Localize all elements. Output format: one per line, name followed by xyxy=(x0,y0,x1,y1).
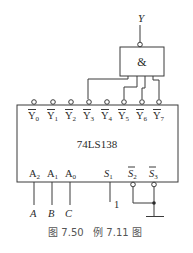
svg-text:S3: S3 xyxy=(149,168,158,181)
svg-text:Y1: Y1 xyxy=(47,110,59,123)
input-s3-bar: S3 xyxy=(149,167,158,181)
s2-bubble xyxy=(131,182,136,187)
output-y1: Y1 xyxy=(47,110,59,124)
wire-y6 xyxy=(142,76,145,99)
input-a0: A0 xyxy=(65,168,77,181)
input-a1: A1 xyxy=(47,168,59,181)
junction-dot xyxy=(152,201,156,205)
output-y6: Y6 xyxy=(136,110,148,124)
output-y-label: Y xyxy=(138,12,146,24)
input-a2: A2 xyxy=(29,168,41,181)
svg-text:Y3: Y3 xyxy=(83,110,95,123)
signal-a-label: A xyxy=(29,208,37,219)
and-gate: & xyxy=(120,47,164,76)
svg-text:Y7: Y7 xyxy=(153,110,165,123)
wire-y3 xyxy=(88,76,128,99)
svg-text:Y2: Y2 xyxy=(65,110,77,123)
input-s2-bar: S2 xyxy=(128,167,137,181)
decoder-circuit-diagram: Y & Y0 Y1 Y2 xyxy=(0,0,193,253)
input-labels: A2 A1 A0 S1 S2 S3 xyxy=(29,167,158,181)
output-y4: Y4 xyxy=(101,110,113,124)
wire-y7 xyxy=(153,76,159,99)
svg-text:Y0: Y0 xyxy=(28,110,40,123)
output-bubbles xyxy=(32,100,162,105)
svg-text:Y5: Y5 xyxy=(118,110,130,123)
signal-c-label: C xyxy=(65,208,73,219)
output-y7: Y7 xyxy=(153,110,165,124)
figure-caption: 图 7.50 例 7.11 图 xyxy=(48,226,142,238)
output-y0: Y0 xyxy=(28,110,40,124)
signal-b-label: B xyxy=(48,208,55,219)
svg-text:S2: S2 xyxy=(128,168,137,181)
output-labels: Y0 Y1 Y2 Y3 Y4 Y5 Y6 Y7 xyxy=(28,110,165,124)
output-y3: Y3 xyxy=(83,110,95,124)
and-symbol: & xyxy=(137,55,147,69)
output-y5: Y5 xyxy=(118,110,130,124)
input-s1: S1 xyxy=(104,168,113,181)
svg-text:Y6: Y6 xyxy=(136,110,148,123)
output-y2: Y2 xyxy=(65,110,77,124)
s1-value-label: 1 xyxy=(114,199,119,210)
wire-s2-ground xyxy=(133,187,154,203)
s3-bubble xyxy=(152,182,157,187)
and-output-bubble xyxy=(138,42,143,47)
svg-text:Y4: Y4 xyxy=(101,110,113,123)
chip-name: 74LS138 xyxy=(77,138,118,150)
